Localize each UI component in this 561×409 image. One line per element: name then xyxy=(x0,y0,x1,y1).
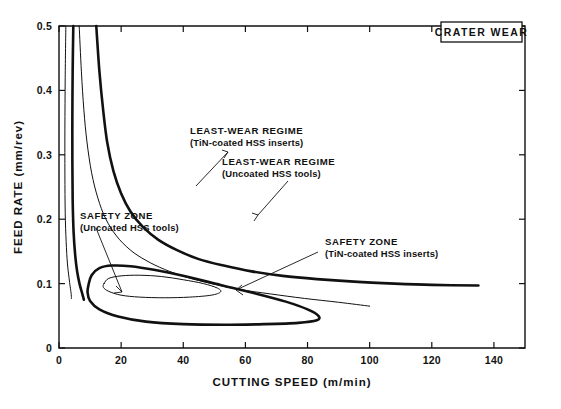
x-tick-label: 20 xyxy=(115,354,127,366)
curve-5 xyxy=(103,275,221,298)
curve-3 xyxy=(65,26,72,298)
x-tick-label: 120 xyxy=(423,354,441,366)
crater-wear-chart: 020406080100120140 00.10.20.30.40.5 CUTT… xyxy=(0,0,561,409)
title-box: CRATER WEAR xyxy=(435,22,528,42)
x-tick-label: 100 xyxy=(361,354,379,366)
y-tick-label: 0 xyxy=(46,342,52,354)
annotation-safety-zone-uncoated: SAFETY ZONE (Uncoated HSS tools) xyxy=(80,210,179,233)
annotation-line-2: (Uncoated HSS tools) xyxy=(222,168,321,179)
y-tick-label: 0.5 xyxy=(37,20,52,32)
y-tick-label: 0.4 xyxy=(37,84,52,96)
plot-frame xyxy=(59,26,525,348)
curve-2 xyxy=(72,26,84,300)
y-tick-label: 0.2 xyxy=(37,213,52,225)
x-tick-label: 40 xyxy=(177,354,189,366)
annotation-line-1: SAFETY ZONE xyxy=(325,236,398,247)
x-tick-label: 140 xyxy=(485,354,503,366)
leader-arrow-uncoated xyxy=(252,213,258,221)
x-tick-label: 0 xyxy=(56,354,62,366)
y-axis-title: FEED RATE (mm/rev) xyxy=(12,120,24,254)
title-box-label: CRATER WEAR xyxy=(435,26,528,38)
x-tick-label: 60 xyxy=(239,354,251,366)
annotation-line-1: LEAST-WEAR REGIME xyxy=(190,125,303,136)
annotation-least-wear-uncoated: LEAST-WEAR REGIME (Uncoated HSS tools) xyxy=(222,156,335,179)
leader-least-wear-uncoated xyxy=(258,181,288,215)
annotation-line-2: (TiN-coated HSS inserts) xyxy=(325,248,438,259)
chart-svg: 020406080100120140 00.10.20.30.40.5 CUTT… xyxy=(0,0,561,409)
x-axis-tick-labels: 020406080100120140 xyxy=(56,354,503,366)
x-tick-label: 80 xyxy=(301,354,313,366)
y-tick-label: 0.1 xyxy=(37,278,52,290)
y-tick-label: 0.3 xyxy=(37,149,52,161)
y-axis-tick-labels: 00.10.20.30.40.5 xyxy=(37,20,52,354)
annotation-least-wear-coated: LEAST-WEAR REGIME (TiN-coated HSS insert… xyxy=(190,125,303,148)
x-axis-title: CUTTING SPEED (m/min) xyxy=(212,376,371,388)
annotation-line-2: (Uncoated HSS tools) xyxy=(80,222,179,233)
y-axis-ticks xyxy=(59,26,525,348)
annotation-line-1: LEAST-WEAR REGIME xyxy=(222,156,335,167)
annotation-line-1: SAFETY ZONE xyxy=(80,210,153,221)
annotation-line-2: (TiN-coated HSS inserts) xyxy=(190,137,303,148)
annotation-safety-zone-coated: SAFETY ZONE (TiN-coated HSS inserts) xyxy=(325,236,438,259)
